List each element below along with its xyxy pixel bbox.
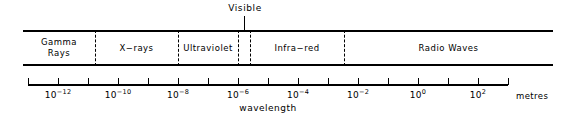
axis-tick <box>208 78 209 85</box>
band-label-gamma-rays: Gamma Rays <box>23 30 95 66</box>
axis-tick <box>268 78 269 85</box>
axis-tick <box>28 78 29 85</box>
mantissa: 10 <box>167 90 179 100</box>
exponent: 0 <box>422 88 426 96</box>
axis-tick <box>358 78 359 85</box>
axis-caption: wavelength <box>208 103 328 113</box>
band-label-ultraviolet: Ultraviolet <box>178 30 238 66</box>
band-label-line2: Rays <box>48 48 70 59</box>
axis-tick <box>508 78 509 85</box>
mantissa: 10 <box>105 90 117 100</box>
mantissa: 10 <box>410 90 422 100</box>
axis-tick-label: 10−10 <box>88 90 148 100</box>
mantissa: 10 <box>287 90 299 100</box>
band-label-radio-waves: Radio Waves <box>344 30 553 66</box>
band-label-line1: X−rays <box>119 43 153 54</box>
axis-tick <box>238 78 239 85</box>
exponent: −10 <box>117 88 132 96</box>
band-label-line1: Infra−red <box>274 43 319 54</box>
band-label-line1: Ultraviolet <box>183 43 233 54</box>
mantissa: 10 <box>227 90 239 100</box>
band-divider-uv-visible <box>238 30 239 66</box>
mantissa: 10 <box>470 90 482 100</box>
mantissa: 10 <box>347 90 359 100</box>
axis-tick-label: 10−8 <box>148 90 208 100</box>
exponent: −8 <box>179 88 189 96</box>
band-label-line1: Radio Waves <box>419 43 479 54</box>
exponent: −4 <box>299 88 309 96</box>
axis-tick <box>478 78 479 85</box>
exponent: 2 <box>482 88 486 96</box>
axis-tick-label: 10−4 <box>268 90 328 100</box>
band-label-infra-red: Infra−red <box>250 30 344 66</box>
axis-tick <box>58 78 59 85</box>
axis-tick <box>148 78 149 85</box>
visible-callout-label: Visible <box>205 3 285 13</box>
band-label-line1: Gamma <box>41 37 77 48</box>
axis-tick-label: 10−2 <box>328 90 388 100</box>
mantissa: 10 <box>45 90 57 100</box>
axis-tick-label: 102 <box>448 90 508 100</box>
axis-unit-label: metres <box>516 91 548 101</box>
axis-tick <box>298 78 299 85</box>
exponent: −2 <box>359 88 369 96</box>
axis-tick <box>118 78 119 85</box>
axis-tick-label: 10−12 <box>28 90 88 100</box>
axis-tick-label: 10−6 <box>208 90 268 100</box>
axis-tick-label: 100 <box>388 90 448 100</box>
axis-tick <box>418 78 419 85</box>
axis-tick <box>88 78 89 85</box>
em-spectrum-diagram: Visible Gamma Rays X−rays Ultraviolet In… <box>0 0 574 119</box>
band-label-x-rays: X−rays <box>95 30 178 66</box>
axis-tick <box>178 78 179 85</box>
axis-tick <box>388 78 389 85</box>
axis-tick <box>448 78 449 85</box>
exponent: −12 <box>57 88 72 96</box>
exponent: −6 <box>239 88 249 96</box>
axis-tick <box>328 78 329 85</box>
